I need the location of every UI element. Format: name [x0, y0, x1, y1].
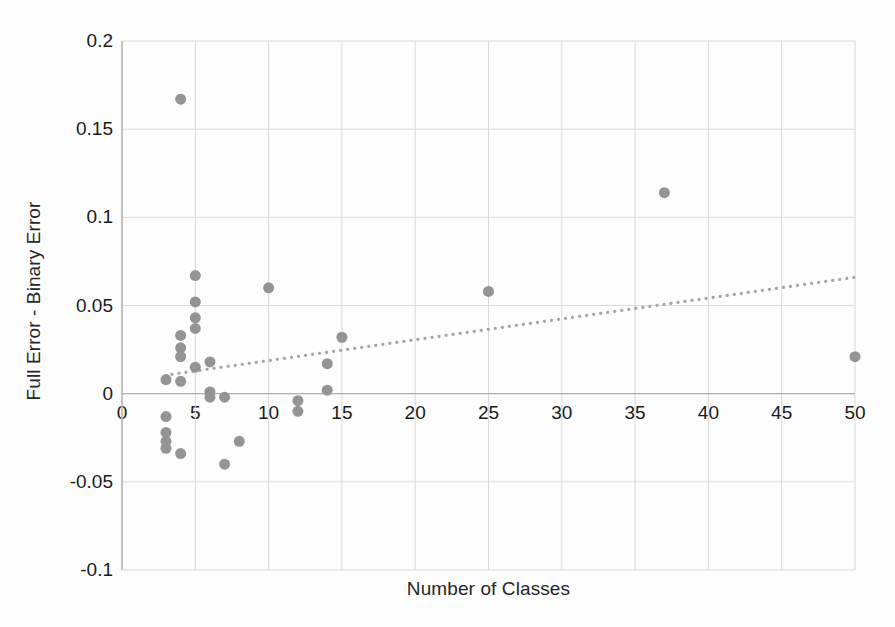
data-point [190, 323, 201, 334]
data-point [190, 270, 201, 281]
data-point [204, 356, 215, 367]
data-point [160, 443, 171, 454]
trendline-path [172, 277, 855, 374]
data-point [219, 459, 230, 470]
scatter-chart: Full Error - Binary Error Number of Clas… [0, 0, 895, 627]
data-point [160, 374, 171, 385]
data-point [175, 351, 186, 362]
data-point [204, 392, 215, 403]
data-point [190, 312, 201, 323]
data-point [219, 392, 230, 403]
data-point [190, 296, 201, 307]
data-point [160, 411, 171, 422]
data-point [336, 332, 347, 343]
plot-area [0, 0, 895, 627]
data-point [175, 94, 186, 105]
data-point [175, 448, 186, 459]
data-point [322, 385, 333, 396]
data-point [175, 330, 186, 341]
gridlines [122, 41, 855, 570]
data-point [292, 406, 303, 417]
data-point [263, 282, 274, 293]
data-point [175, 376, 186, 387]
data-point [292, 395, 303, 406]
data-point [322, 358, 333, 369]
trendline [172, 277, 855, 374]
data-points [160, 94, 860, 470]
data-point [483, 286, 494, 297]
data-point [234, 436, 245, 447]
data-point [190, 362, 201, 373]
data-point [659, 187, 670, 198]
data-point [850, 351, 861, 362]
